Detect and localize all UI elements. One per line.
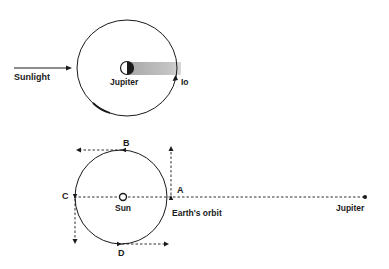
sun-icon [120, 194, 127, 201]
point-a-label: A [177, 186, 184, 195]
point-b-label: B [123, 139, 130, 148]
sunlight-arrow-icon [14, 66, 72, 71]
sunlight-label: Sunlight [14, 73, 50, 82]
jupiter-far-label: Jupiter [336, 204, 364, 213]
sun-label: Sun [115, 204, 131, 213]
jupiter-planet-icon [121, 62, 134, 75]
point-c-label: C [62, 192, 69, 201]
io-orbit-diagram [14, 20, 181, 116]
earth-orbit-label: Earth's orbit [172, 209, 222, 218]
jupiter-shadow [127, 62, 181, 75]
jupiter-label: Jupiter [110, 78, 138, 87]
io-label: Io [181, 78, 189, 87]
diagram-canvas [0, 0, 389, 269]
point-d-label: D [118, 249, 125, 258]
tangent-arrow-a-icon [169, 146, 174, 200]
jupiter-dot-icon [363, 195, 367, 199]
earth-orbit-diagram [73, 146, 368, 247]
io-arrow-icon [173, 75, 179, 81]
tangent-arrow-c-icon [73, 194, 78, 244]
